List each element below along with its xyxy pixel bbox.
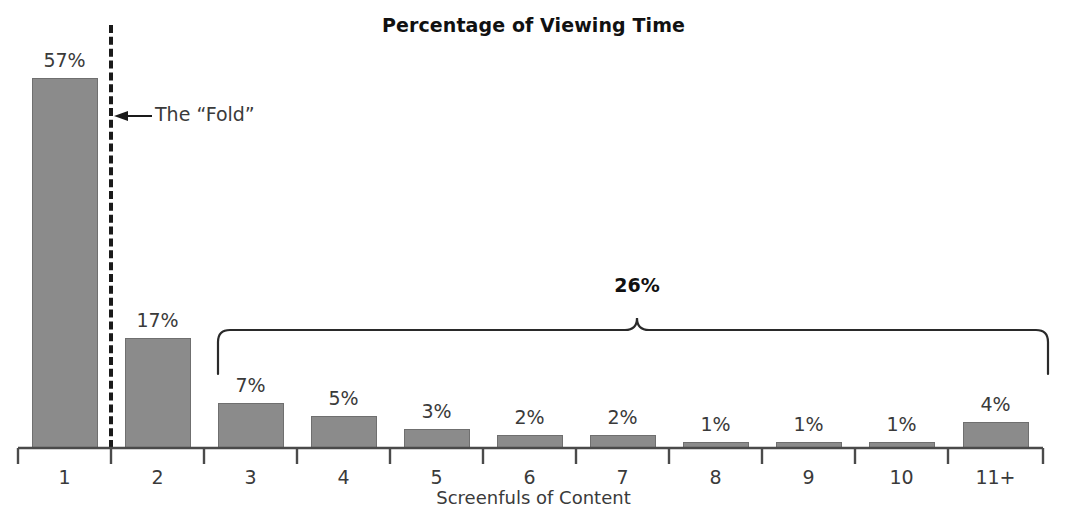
fold-dashed-line — [109, 25, 113, 448]
bar-5 — [404, 429, 470, 448]
plot-area: 57%117%27%35%43%52%62%71%81%91%104%11+ — [0, 0, 1067, 528]
bar-value-label-2: 17% — [98, 309, 218, 331]
bar-value-label-11+: 4% — [936, 393, 1056, 415]
bar-2 — [125, 338, 191, 448]
bar-10 — [869, 442, 935, 448]
bar-3 — [218, 403, 284, 448]
bar-8 — [683, 442, 749, 448]
bar-11+ — [963, 422, 1029, 448]
bar-1 — [32, 78, 98, 448]
brace-value-label: 26% — [577, 274, 697, 296]
bar-9 — [776, 442, 842, 448]
bar-4 — [311, 416, 377, 448]
bar-7 — [590, 435, 656, 448]
bar-value-label-10: 1% — [842, 413, 962, 435]
chart-container: Percentage of Viewing Time 57%117%27%35%… — [0, 0, 1067, 528]
bar-value-label-1: 57% — [5, 49, 125, 71]
x-axis-title: Screenfuls of Content — [0, 487, 1067, 508]
x-tick-label-11+: 11+ — [936, 466, 1056, 488]
bar-6 — [497, 435, 563, 448]
fold-annotation-label: The “Fold” — [155, 103, 255, 125]
